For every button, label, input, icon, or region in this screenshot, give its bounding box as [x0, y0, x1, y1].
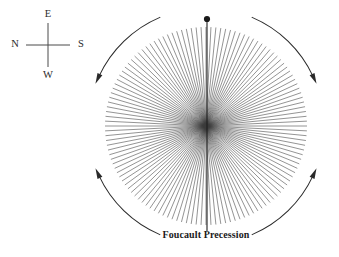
precession-arrow-top-right — [252, 17, 313, 76]
precession-arrow-bottom-left-head — [95, 168, 102, 179]
compass-label-east: E — [45, 8, 51, 19]
compass-label-south: S — [78, 38, 84, 49]
pendulum-bob — [204, 16, 210, 22]
compass-rose: E W N S — [11, 8, 84, 80]
foucault-precession-figure: E W N S Foucault Precession — [0, 0, 339, 257]
pendulum-swing-traces — [105, 27, 307, 225]
precession-arrow-bottom-right-head — [310, 168, 317, 179]
figure-page: E W N S Foucault Precession — [0, 0, 339, 257]
compass-label-west: W — [43, 69, 53, 80]
compass-label-north: N — [11, 38, 19, 49]
precession-arrow-bottom-left — [99, 176, 160, 235]
precession-arrow-top-right-head — [310, 73, 317, 84]
precession-arrow-top-left — [99, 17, 160, 76]
figure-caption: Foucault Precession — [163, 229, 250, 240]
precession-arrow-top-left-head — [95, 73, 102, 84]
precession-arrow-bottom-right — [252, 176, 313, 235]
